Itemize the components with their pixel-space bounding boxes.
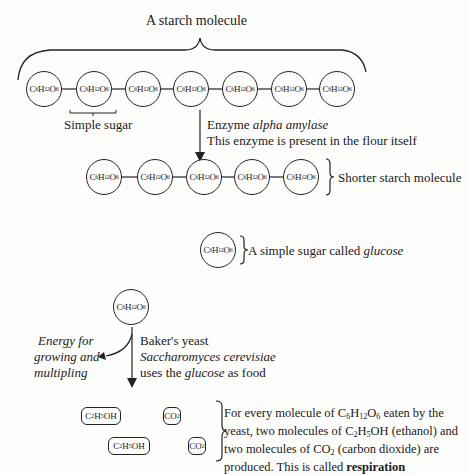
desc-part: For every molecule of C bbox=[224, 406, 346, 420]
glucose-label-italic: glucose bbox=[364, 243, 404, 258]
ethanol-molecule: C2H5OH bbox=[81, 407, 121, 425]
yeast-food: uses the glucose as food bbox=[140, 365, 266, 380]
glucose-molecule: C6H12O6 bbox=[200, 232, 236, 268]
glucose-unit: C6H12O6 bbox=[137, 159, 173, 195]
yeast-label: Baker's yeast bbox=[140, 333, 208, 348]
enzyme-note: This enzyme is present in the flour itse… bbox=[207, 133, 417, 148]
respiration-term: respiration bbox=[346, 460, 405, 474]
glucose-unit: C6H12O6 bbox=[319, 71, 355, 107]
glucose-unit: C6H12O6 bbox=[173, 71, 209, 107]
yeast-food-suffix: as food bbox=[225, 365, 266, 380]
starch-molecule-title: A starch molecule bbox=[146, 13, 247, 28]
enzyme-prefix: Enzyme bbox=[207, 117, 253, 132]
glucose-unit: C6H12O6 bbox=[26, 71, 62, 107]
glucose-brace bbox=[240, 236, 248, 264]
glucose-unit: C6H12O6 bbox=[125, 71, 161, 107]
enzyme-name: alpha amylase bbox=[253, 117, 328, 132]
respiration-description: For every molecule of C6H12O6 eaten by t… bbox=[224, 406, 464, 475]
glucose-unit: C6H12O6 bbox=[283, 159, 319, 195]
co2-molecule: CO2 bbox=[163, 407, 181, 425]
energy-line: growing and bbox=[34, 349, 100, 364]
ethanol-molecule: C2H5OH bbox=[108, 437, 150, 455]
glucose-unit: C6H12O6 bbox=[86, 159, 122, 195]
yeast-food-prefix: uses the bbox=[140, 365, 185, 380]
simple-sugar-bracket bbox=[70, 110, 116, 116]
glucose-molecule: C6H12O6 bbox=[113, 289, 149, 325]
glucose-label: A simple sugar called glucose bbox=[248, 243, 403, 258]
energy-label-1: Energy for bbox=[38, 333, 93, 348]
glucose-label-prefix: A simple sugar called bbox=[248, 243, 364, 258]
glucose-unit: C6H12O6 bbox=[222, 71, 258, 107]
energy-line: Energy for bbox=[38, 333, 93, 348]
yeast-species-name: Saccharomyces cerevisiae bbox=[140, 349, 276, 364]
yeast-species: Saccharomyces cerevisiae bbox=[140, 349, 276, 364]
glucose-unit: C6H12O6 bbox=[234, 159, 270, 195]
glucose-unit: C6H12O6 bbox=[271, 71, 307, 107]
energy-line: multipling bbox=[34, 365, 87, 380]
shorter-starch-label: Shorter starch molecule bbox=[338, 170, 461, 185]
enzyme-label: Enzyme alpha amylase bbox=[207, 117, 328, 132]
energy-label-2: growing and bbox=[34, 349, 100, 364]
energy-label-3: multipling bbox=[34, 365, 87, 380]
glucose-unit: C6H12O6 bbox=[76, 71, 112, 107]
simple-sugar-label: Simple sugar bbox=[64, 117, 132, 132]
shorter-brace bbox=[326, 159, 334, 195]
co2-molecule: CO2 bbox=[188, 437, 206, 455]
glucose-unit: C6H12O6 bbox=[186, 159, 222, 195]
yeast-food-italic: glucose bbox=[185, 365, 225, 380]
arrow-head bbox=[127, 378, 137, 388]
